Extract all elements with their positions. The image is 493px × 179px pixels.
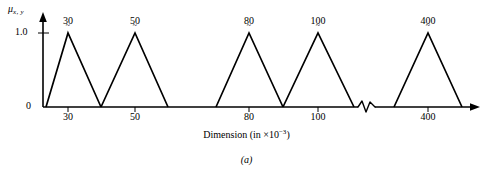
x-axis-caption: Dimension (in ×10−3) — [203, 129, 289, 140]
triangle-30 — [46, 33, 101, 107]
fuzzy-membership-figure: μx, y 1.0 0 30 ~ 50 ~ 80 ~ 100 ~ 400 ~ 3… — [0, 0, 493, 179]
triangle-100 — [283, 33, 354, 107]
x-tick-label-50: 50 — [130, 112, 140, 122]
y-axis-label: μx, y — [8, 4, 24, 16]
x-axis — [43, 103, 480, 111]
x-axis-caption-close: ) — [286, 129, 289, 140]
x-tick-label-80: 80 — [244, 112, 254, 122]
membership-triangles — [46, 33, 462, 107]
triangle-400 — [394, 33, 462, 107]
y-axis — [39, 12, 47, 107]
y-tick-label-1: 1.0 — [15, 27, 28, 37]
x-tick-label-30: 30 — [63, 112, 73, 122]
triangle-50 — [101, 33, 168, 107]
axis-break-icon — [358, 101, 375, 112]
y-axis-label-subscript: x, y — [13, 8, 24, 16]
peak-label-30: 30 ~ — [63, 16, 73, 27]
peak-label-100: 100 ~ — [311, 16, 326, 27]
y-tick-label-0: 0 — [26, 101, 31, 111]
x-axis-caption-text: Dimension (in ×10 — [203, 129, 279, 140]
x-axis-caption-exponent: −3 — [279, 128, 286, 136]
peak-label-80: 80 ~ — [244, 16, 254, 27]
x-tick-label-400: 400 — [421, 112, 436, 122]
figure-caption: (a) — [241, 155, 253, 165]
peak-label-50: 50 ~ — [130, 16, 140, 27]
x-tick-label-100: 100 — [311, 112, 326, 122]
peak-label-400: 400 ~ — [421, 16, 436, 27]
triangle-80 — [216, 33, 283, 107]
